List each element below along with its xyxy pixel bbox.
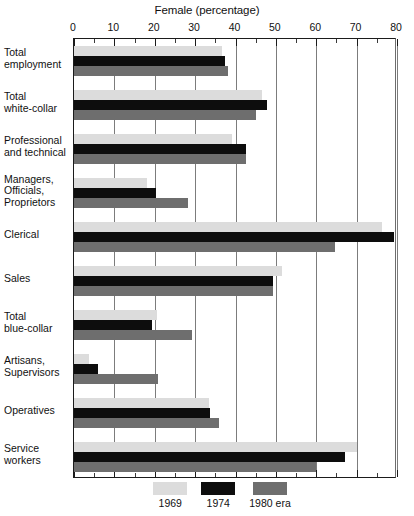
category-label-line: Operatives [4,405,71,417]
bar [74,154,246,164]
category-label: Totalemployment [4,47,71,70]
bar [74,110,256,120]
x-axis-tick-labels: 01020304050607080 [0,21,414,34]
bar [74,266,282,276]
bar [74,56,225,66]
axis-tick-25-bottom [175,473,176,477]
category-label: Operatives [4,405,71,417]
axis-tick-60-top [316,39,317,46]
axis-tick-30-top [195,39,196,46]
bar [74,398,209,408]
x-tick-label-0: 0 [70,21,76,33]
bar-group [74,178,395,208]
category-label: Totalwhite-collar [4,91,71,114]
bar [74,198,188,208]
bar [74,144,246,154]
x-tick-label-10: 10 [108,21,120,33]
category-label: Artisans,Supervisors [4,355,71,378]
axis-tick-40-top [236,39,237,46]
bar-chart: Female (percentage) 01020304050607080 To… [0,0,414,516]
plot-area [73,38,396,478]
x-tick-label-20: 20 [148,21,160,33]
x-tick-label-70: 70 [350,21,362,33]
bar [74,66,228,76]
axis-tick-35-top [215,39,216,43]
bar-group [74,310,395,340]
legend-swatch [253,482,287,495]
chart-legend: 196919741980 era [0,482,414,512]
bar [74,286,273,296]
x-tick-label-30: 30 [188,21,200,33]
category-label-line: and technical [4,147,71,159]
bar-group [74,442,395,472]
bar [74,178,147,188]
axis-tick-55-bottom [296,473,297,477]
chart-axis-title: Female (percentage) [0,4,414,16]
bar [74,320,152,330]
bar [74,330,192,340]
bar-group [74,134,395,164]
bar-group [74,222,395,252]
category-label-line: blue-collar [4,323,71,335]
axis-tick-20-top [155,39,156,46]
axis-tick-15-top [135,39,136,43]
bar-group [74,354,395,384]
legend-item-1974[interactable]: 1974 [201,482,235,509]
bar-group [74,46,395,76]
axis-tick-75-bottom [377,473,378,477]
bar [74,462,316,472]
bar [74,90,262,100]
axis-tick-70-top [357,39,358,46]
category-label: Serviceworkers [4,443,71,466]
bar-group [74,266,395,296]
axis-tick-80-top [397,39,398,46]
axis-tick-15-bottom [135,473,136,477]
category-label-line: Clerical [4,229,71,241]
legend-item-1980-era[interactable]: 1980 era [249,482,290,509]
axis-tick-65-top [336,39,337,43]
axis-tick-5-bottom [94,473,95,477]
bar [74,46,222,56]
axis-tick-10-top [114,39,115,46]
category-label-line: Proprietors [4,197,71,209]
bar [74,354,89,364]
category-label: Totalblue-collar [4,311,71,334]
legend-swatch [201,482,235,495]
axis-tick-0-top [74,39,75,46]
bar-group [74,398,395,428]
bar [74,242,335,252]
legend-label: 1969 [159,497,182,509]
bar [74,100,267,110]
axis-tick-50-top [276,39,277,46]
category-label: Managers,Officials,Proprietors [4,174,71,209]
x-tick-label-40: 40 [229,21,241,33]
bar [74,188,156,198]
bar [74,134,232,144]
gridline-80 [397,39,398,477]
legend-swatch [153,482,187,495]
bar [74,374,158,384]
bar [74,452,345,462]
x-tick-label-50: 50 [269,21,281,33]
axis-tick-5-top [94,39,95,43]
axis-tick-45-bottom [256,473,257,477]
category-label: Sales [4,273,71,285]
legend-label: 1980 era [249,497,290,509]
bar [74,364,98,374]
bar [74,222,382,232]
category-label: Clerical [4,229,71,241]
bar [74,418,219,428]
bar [74,276,273,286]
category-label-line: Sales [4,273,71,285]
category-label-line: employment [4,59,71,71]
legend-label: 1974 [207,497,230,509]
axis-tick-55-top [296,39,297,43]
bar [74,408,210,418]
category-label: Professionaland technical [4,135,71,158]
axis-tick-65-bottom [336,473,337,477]
axis-tick-25-top [175,39,176,43]
legend-item-1969[interactable]: 1969 [153,482,187,509]
category-label-line: workers [4,455,71,467]
x-tick-label-60: 60 [309,21,321,33]
axis-tick-35-bottom [215,473,216,477]
